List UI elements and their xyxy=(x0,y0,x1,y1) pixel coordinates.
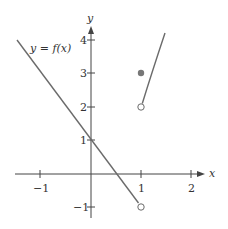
y-tick-3: 3 xyxy=(80,67,87,80)
x-axis-label: x xyxy=(209,167,216,180)
y-axis xyxy=(87,26,95,218)
y-tick-1: 1 xyxy=(80,134,87,147)
x-tick-neg1: −1 xyxy=(33,182,49,195)
function-label: y = f(x) xyxy=(29,42,71,55)
x-tick-2: 2 xyxy=(188,182,195,195)
y-tick-4: 4 xyxy=(80,34,87,47)
right-curve-piece xyxy=(142,33,165,104)
open-circle-1-neg1 xyxy=(138,204,144,210)
x-arrow-icon xyxy=(197,171,205,177)
y-arrow-icon xyxy=(88,26,94,34)
function-graph: −1 1 2 −1 1 2 3 4 x y y = f(x) xyxy=(0,0,228,229)
filled-dot-1-3 xyxy=(138,70,144,76)
y-tick-2: 2 xyxy=(80,101,87,114)
x-tick-1: 1 xyxy=(138,182,145,195)
x-axis xyxy=(15,170,205,178)
y-tick-neg1: −1 xyxy=(73,201,89,214)
y-axis-label: y xyxy=(86,12,94,25)
open-circle-1-2 xyxy=(138,104,144,110)
left-line-piece xyxy=(17,40,139,203)
